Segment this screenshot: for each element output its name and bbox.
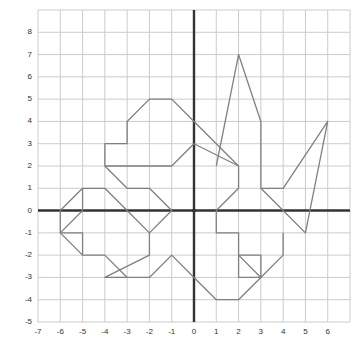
x-tick-label: 2	[233, 328, 245, 336]
y-tick-label: -2	[18, 251, 32, 259]
x-tick-label: -6	[54, 328, 66, 336]
y-tick-label: 2	[18, 162, 32, 170]
x-tick-label: 3	[255, 328, 267, 336]
x-tick-label: 0	[188, 328, 200, 336]
y-tick-label: 6	[18, 73, 32, 81]
y-tick-label: -3	[18, 273, 32, 281]
y-tick-label: -5	[18, 318, 32, 326]
y-tick-label: 0	[18, 207, 32, 215]
x-tick-label: 1	[210, 328, 222, 336]
y-tick-label: 1	[18, 184, 32, 192]
x-tick-label: 5	[299, 328, 311, 336]
x-tick-label: -1	[166, 328, 178, 336]
chart-container: -7-6-5-4-3-2-10123456-5-4-3-2-1012345678	[0, 0, 360, 355]
x-tick-label: -4	[99, 328, 111, 336]
y-tick-label: -1	[18, 229, 32, 237]
x-tick-label: -7	[32, 328, 44, 336]
x-tick-label: -3	[121, 328, 133, 336]
y-tick-label: 8	[18, 28, 32, 36]
y-tick-label: 5	[18, 95, 32, 103]
x-tick-label: -2	[143, 328, 155, 336]
y-tick-label: 7	[18, 51, 32, 59]
series-figure-outline	[60, 99, 261, 300]
series-figure-detail-left-lower	[60, 188, 82, 255]
x-tick-label: -5	[77, 328, 89, 336]
coordinate-plane-chart	[0, 0, 360, 355]
y-tick-label: -4	[18, 296, 32, 304]
x-tick-label: 4	[277, 328, 289, 336]
y-tick-label: 4	[18, 117, 32, 125]
y-tick-label: 3	[18, 140, 32, 148]
origin-point	[192, 209, 196, 213]
x-tick-label: 6	[322, 328, 334, 336]
